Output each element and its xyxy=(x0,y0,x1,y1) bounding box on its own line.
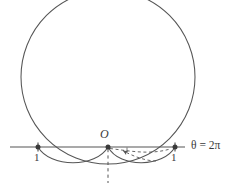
left-unit-label: 1 xyxy=(34,152,40,163)
origin-point xyxy=(106,145,111,150)
left-cycloid-arch xyxy=(38,147,108,163)
chord-dashed-line xyxy=(110,149,170,153)
origin-label: O xyxy=(100,128,109,140)
theta-axis-label: θ = 2π xyxy=(191,140,220,152)
right-unit-label: 1 xyxy=(171,152,177,163)
cycloid-figure: O 1 1 θ = 2π xyxy=(0,0,235,185)
